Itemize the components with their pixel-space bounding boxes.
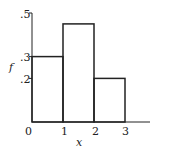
x-tick-1: 1: [61, 126, 68, 137]
y-tick-03: .3: [20, 52, 31, 63]
histogram-bar: [32, 57, 63, 122]
y-axis-label: f: [9, 62, 13, 73]
histogram-bar: [94, 78, 125, 122]
x-tick-3: 3: [122, 126, 129, 137]
x-axis-label: x: [76, 137, 82, 148]
histogram-chart: f x 0 1 2 3 .2 .3 .5: [0, 0, 169, 149]
histogram-bar: [63, 24, 94, 122]
y-tick-05: .5: [20, 9, 31, 20]
x-tick-2: 2: [92, 126, 99, 137]
y-tick-02: .2: [20, 74, 31, 85]
x-tick-0: 0: [25, 126, 32, 137]
